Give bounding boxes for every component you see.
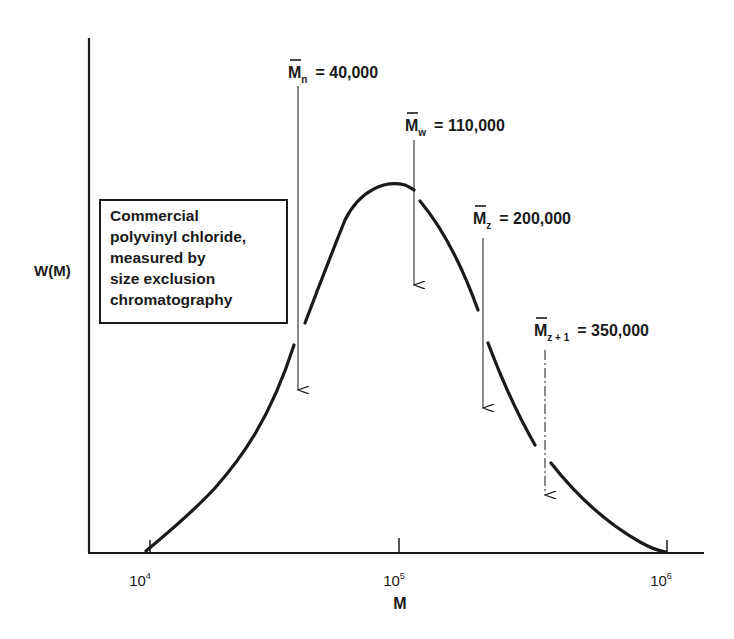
annotation-mw: Mw= 110,000	[405, 113, 505, 138]
y-axis-label: W(M)	[34, 262, 71, 279]
svg-text:Mz= 200,000: Mz= 200,000	[473, 210, 571, 231]
svg-text:Mn= 40,000: Mn= 40,000	[288, 64, 378, 85]
svg-text:Mw= 110,000: Mw= 110,000	[405, 117, 505, 138]
x-tick-label-1e6: 106	[650, 571, 672, 589]
description-box: Commercial polyvinyl chloride, measured …	[100, 200, 287, 323]
svg-text:Mz + 1= 350,000: Mz + 1= 350,000	[534, 322, 649, 343]
x-tick-label-1e4: 104	[129, 571, 151, 589]
x-axis-label: M	[393, 595, 406, 612]
x-tick-label-1e5: 105	[383, 571, 405, 589]
chart: 104 105 106 M W(M) Mn= 40,000 Mw= 110,00…	[0, 0, 734, 639]
annotation-mz1: Mz + 1= 350,000	[534, 318, 649, 343]
annotation-mz: Mz= 200,000	[473, 206, 571, 231]
annotation-mn: Mn= 40,000	[288, 60, 378, 85]
